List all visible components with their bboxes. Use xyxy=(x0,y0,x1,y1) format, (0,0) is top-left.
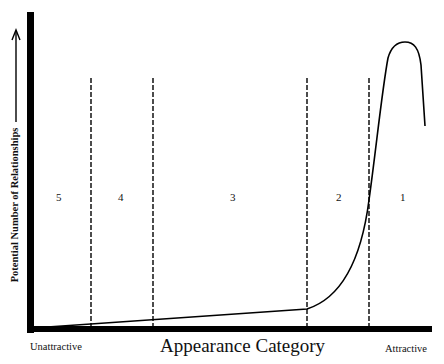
category-label-4: 4 xyxy=(118,191,124,203)
x-axis-max-label: Attractive xyxy=(385,343,427,354)
x-axis-title: Appearance Category xyxy=(160,335,325,357)
x-axis-min-label: Unattractive xyxy=(30,341,82,352)
category-label-5: 5 xyxy=(56,191,62,203)
y-axis xyxy=(27,12,34,333)
y-axis-label: Potential Number of Relationships xyxy=(3,0,25,330)
relationship-curve xyxy=(33,42,425,328)
y-axis-title: Potential Number of Relationships xyxy=(9,128,20,283)
category-label-1: 1 xyxy=(400,191,406,203)
category-label-2: 2 xyxy=(336,191,342,203)
chart-canvas xyxy=(0,0,444,364)
category-label-3: 3 xyxy=(230,191,236,203)
x-axis xyxy=(27,326,432,332)
